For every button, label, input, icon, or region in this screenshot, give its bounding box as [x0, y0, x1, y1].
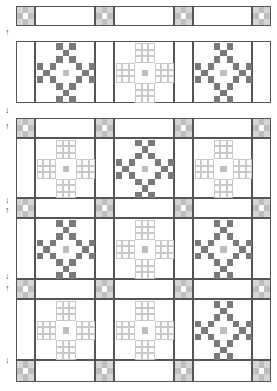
patch [56, 272, 62, 279]
sashing-vertical [16, 299, 35, 360]
patch [89, 253, 95, 260]
patch [233, 63, 239, 70]
patch [195, 76, 201, 83]
quilt-block-dark [114, 138, 174, 198]
sashing-rail [114, 360, 174, 382]
sashing-vertical [174, 138, 193, 198]
sashing-vertical [252, 218, 271, 279]
patch [107, 19, 113, 25]
patch [168, 172, 174, 178]
arrow-up-icon: ↑ [5, 28, 11, 37]
patch [63, 50, 69, 57]
patch [148, 83, 154, 90]
patch [148, 140, 154, 146]
patch [168, 240, 174, 247]
patch [142, 327, 148, 334]
patch [28, 131, 34, 137]
patch [89, 240, 95, 247]
nine-patch-cornerstone [95, 279, 114, 299]
patch [264, 374, 270, 381]
quilt-block-light [193, 138, 252, 198]
nine-patch-cornerstone [174, 6, 193, 26]
patch [220, 266, 226, 273]
patch [246, 334, 252, 341]
nine-patch-cornerstone [174, 198, 193, 218]
nine-patch-cornerstone [95, 360, 114, 382]
patch [69, 220, 75, 227]
sashing-vertical [95, 138, 114, 198]
patch [63, 327, 69, 334]
sashing-rail [35, 279, 95, 299]
patch [148, 266, 154, 273]
patch [148, 308, 154, 315]
patch [63, 227, 69, 234]
patch [168, 76, 174, 83]
patch [69, 56, 75, 63]
nine-patch-cornerstone [252, 198, 271, 218]
sashing-rail [193, 6, 252, 26]
arrow-down-icon: ↓ [5, 356, 11, 365]
patch [63, 266, 69, 273]
patch [50, 321, 56, 328]
sashing-rail [193, 118, 252, 138]
patch [214, 96, 220, 103]
sashing-vertical [252, 138, 271, 198]
patch [220, 327, 226, 334]
patch [220, 50, 226, 57]
quilt-block-light [35, 138, 95, 198]
patch [227, 220, 233, 227]
nine-patch-cornerstone [95, 118, 114, 138]
patch [107, 292, 113, 298]
patch [233, 253, 239, 260]
sashing-rail [35, 198, 95, 218]
nine-patch-cornerstone [16, 279, 35, 299]
patch [50, 240, 56, 247]
sashing-vertical [95, 218, 114, 279]
patch [129, 76, 135, 83]
patch [56, 83, 62, 90]
patch [246, 63, 252, 70]
quilt-block-light [35, 299, 95, 360]
patch [89, 63, 95, 70]
patch [82, 70, 88, 77]
patch [148, 90, 154, 97]
nine-patch-cornerstone [252, 6, 271, 26]
patch [148, 43, 154, 50]
patch [129, 159, 135, 165]
nine-patch-cornerstone [174, 279, 193, 299]
patch [214, 43, 220, 50]
quilt-block-dark [35, 41, 95, 103]
patch [148, 347, 154, 354]
patch [227, 83, 233, 90]
sashing-rail [114, 6, 174, 26]
patch [148, 56, 154, 63]
quilt-block-dark [35, 218, 95, 279]
patch [148, 50, 154, 57]
patch [168, 321, 174, 328]
patch [214, 353, 220, 360]
sashing-rail [35, 360, 95, 382]
patch [214, 83, 220, 90]
sashing-vertical [174, 218, 193, 279]
patch [186, 368, 192, 375]
patch [264, 361, 270, 368]
patch [129, 240, 135, 247]
patch [28, 211, 34, 217]
patch [264, 19, 270, 25]
patch [69, 96, 75, 103]
patch [220, 166, 226, 172]
patch [63, 246, 69, 253]
quilt-block-light [114, 41, 174, 103]
patch [208, 321, 214, 328]
patch [168, 334, 174, 341]
patch [129, 63, 135, 70]
patch [50, 334, 56, 341]
patch [264, 292, 270, 298]
nine-patch-cornerstone [16, 360, 35, 382]
patch [63, 90, 69, 97]
patch [129, 334, 135, 341]
patch [208, 253, 214, 260]
patch [148, 272, 154, 279]
nine-patch-cornerstone [174, 360, 193, 382]
sashing-rail [193, 360, 252, 382]
